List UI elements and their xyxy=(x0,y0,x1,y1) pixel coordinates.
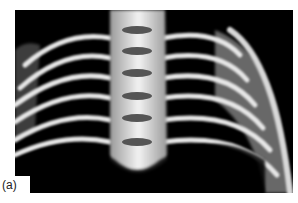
figure-label: (a) xyxy=(2,178,17,192)
xray-illustration xyxy=(15,10,293,193)
xray-image xyxy=(15,10,293,193)
